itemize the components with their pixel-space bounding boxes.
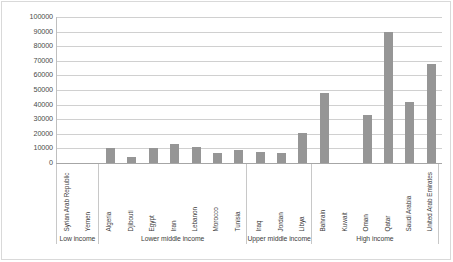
y-axis-tick-label: 20000 <box>7 130 53 137</box>
y-axis-tick-label: 0 <box>7 159 53 166</box>
bar-cell <box>185 17 206 163</box>
y-axis-tick-label: 30000 <box>7 115 53 122</box>
bar-cell <box>228 17 249 163</box>
x-axis-group-band: Low income <box>56 164 99 244</box>
bar <box>170 144 179 163</box>
bar <box>213 153 222 163</box>
bar <box>192 147 201 163</box>
bar-cell <box>164 17 185 163</box>
bar <box>149 148 158 163</box>
x-axis-group-bands: Low incomeLower middle incomeUpper middl… <box>56 164 441 244</box>
y-axis-tick-label: 100000 <box>7 13 53 20</box>
x-axis-group-label: Low income <box>59 235 95 244</box>
bar-cell <box>78 17 99 163</box>
bar-cell <box>250 17 271 163</box>
y-axis-tick-label: 80000 <box>7 42 53 49</box>
bar-cell <box>57 17 78 163</box>
bar <box>106 148 115 163</box>
x-axis-group-label: Lower middle income <box>141 235 204 244</box>
y-axis-tick-label: 50000 <box>7 86 53 93</box>
y-axis-tick-label: 90000 <box>7 28 53 35</box>
bar-cell <box>271 17 292 163</box>
bar-cell <box>399 17 420 163</box>
y-axis-tick-label: 60000 <box>7 71 53 78</box>
x-axis-group-band: Lower middle income <box>98 164 248 244</box>
bar <box>427 64 436 163</box>
bar-cell <box>356 17 377 163</box>
bar <box>384 32 393 163</box>
x-axis-group-band: Upper middle income <box>246 164 311 244</box>
bar <box>256 152 265 163</box>
bar-series <box>57 17 442 163</box>
bar <box>363 115 372 163</box>
bar-cell <box>207 17 228 163</box>
bar-cell <box>314 17 335 163</box>
x-axis-group-band: High income <box>311 164 439 244</box>
bar-cell <box>378 17 399 163</box>
bar <box>277 153 286 163</box>
y-axis-tick-label: 70000 <box>7 57 53 64</box>
bar <box>320 93 329 163</box>
bar-cell <box>335 17 356 163</box>
y-axis-tick-label: 40000 <box>7 101 53 108</box>
bar-cell <box>292 17 313 163</box>
y-axis-tick-label: 10000 <box>7 144 53 151</box>
plot-area <box>56 17 442 163</box>
bar-cell <box>421 17 442 163</box>
x-axis-group-label: High income <box>356 235 393 244</box>
bar-cell <box>100 17 121 163</box>
bar-cell <box>121 17 142 163</box>
bar-cell <box>143 17 164 163</box>
y-axis: 1000009000080000700006000050000400003000… <box>6 0 53 262</box>
x-axis-group-label: Upper middle income <box>247 235 310 244</box>
bar-chart: 1000009000080000700006000050000400003000… <box>0 0 453 262</box>
bar <box>298 133 307 163</box>
bar <box>234 150 243 163</box>
bar <box>405 102 414 163</box>
